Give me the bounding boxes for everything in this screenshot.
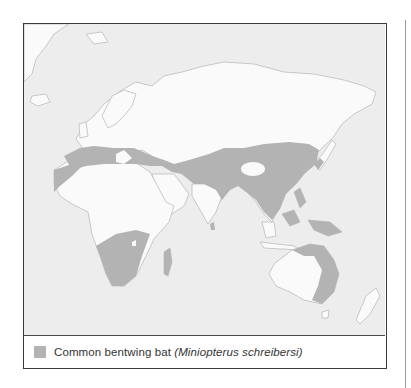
map-legend: Common bentwing bat (Miniopterus schreib… <box>24 336 385 367</box>
legend-swatch <box>34 346 46 358</box>
britain-landmass <box>79 122 88 138</box>
legend-scientific-name: (Miniopterus schreibersi) <box>174 346 302 358</box>
map-figure: Common bentwing bat (Miniopterus schreib… <box>23 23 387 369</box>
legend-common-name: Common bentwing bat <box>54 346 174 358</box>
range-gap-tibet <box>241 162 265 176</box>
page-margin-rule <box>405 20 406 388</box>
legend-label: Common bentwing bat (Miniopterus schreib… <box>54 346 303 358</box>
world-map-svg <box>24 24 385 335</box>
distribution-map <box>24 24 385 336</box>
